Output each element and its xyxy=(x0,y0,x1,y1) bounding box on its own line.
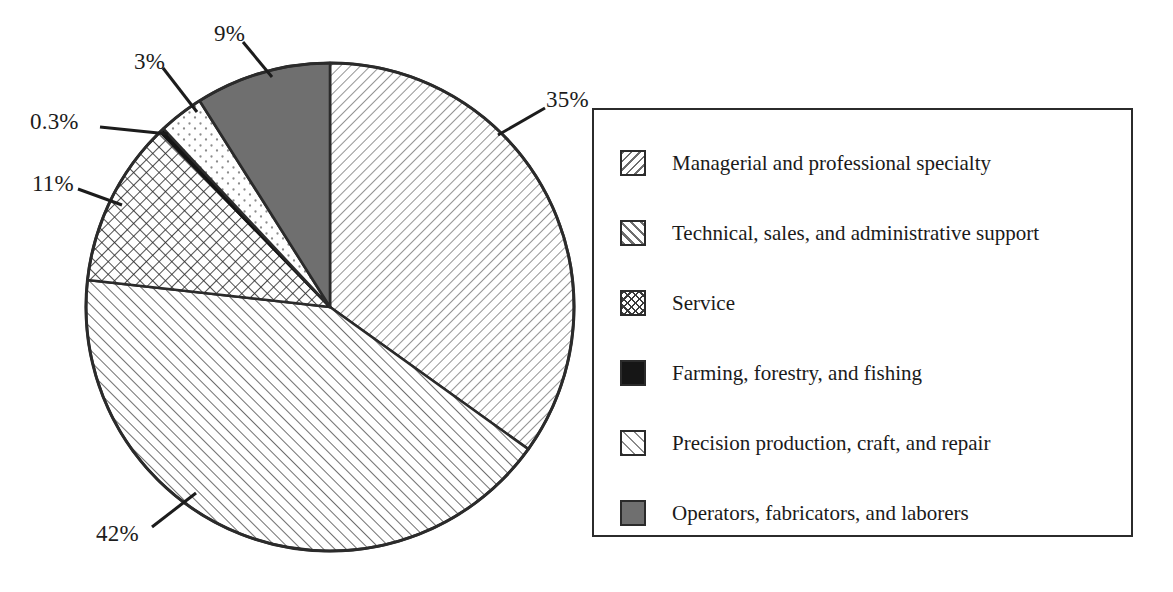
legend-swatch-backslash-hatch-icon xyxy=(620,150,646,176)
pie-label-0-3: 0.3% xyxy=(30,110,79,133)
legend-list: Managerial and professional specialty Te… xyxy=(620,128,1123,527)
leader-line-03 xyxy=(100,127,168,134)
legend-swatch-crosshatch-icon xyxy=(620,290,646,316)
pie-label-42: 42% xyxy=(96,522,139,545)
pie-label-11: 11% xyxy=(32,172,74,195)
legend-item-farming: Farming, forestry, and fishing xyxy=(620,338,1123,408)
pie-label-9: 9% xyxy=(214,22,245,45)
legend-swatch-solid-black-icon xyxy=(620,360,646,386)
pie-svg xyxy=(0,0,592,592)
legend-label-farming: Farming, forestry, and fishing xyxy=(672,361,922,386)
legend: Managerial and professional specialty Te… xyxy=(592,108,1133,537)
legend-label-service: Service xyxy=(672,291,735,316)
legend-item-managerial: Managerial and professional specialty xyxy=(620,128,1123,198)
legend-label-operators: Operators, fabricators, and laborers xyxy=(672,501,969,526)
legend-item-technical: Technical, sales, and administrative sup… xyxy=(620,198,1123,268)
pie-graphic: 35% 42% 11% 0.3% 3% 9% xyxy=(0,0,592,592)
leader-line-35 xyxy=(498,108,545,135)
legend-swatch-solid-gray-icon xyxy=(620,500,646,526)
pie-label-3: 3% xyxy=(134,50,165,73)
pie-label-35: 35% xyxy=(546,88,589,111)
legend-item-service: Service xyxy=(620,268,1123,338)
pie-chart-figure: 35% 42% 11% 0.3% 3% 9% Managerial and pr… xyxy=(0,0,1173,592)
legend-label-technical: Technical, sales, and administrative sup… xyxy=(672,221,1039,246)
leader-line-9 xyxy=(243,42,272,77)
leader-line-42 xyxy=(152,493,196,527)
leader-line-3 xyxy=(163,68,197,112)
legend-item-precision: Precision production, craft, and repair xyxy=(620,408,1123,478)
legend-item-operators: Operators, fabricators, and laborers xyxy=(620,478,1123,548)
legend-swatch-dots-icon xyxy=(620,430,646,456)
legend-swatch-forwardslash-hatch-icon xyxy=(620,220,646,246)
legend-label-managerial: Managerial and professional specialty xyxy=(672,151,991,176)
legend-label-precision: Precision production, craft, and repair xyxy=(672,431,990,456)
